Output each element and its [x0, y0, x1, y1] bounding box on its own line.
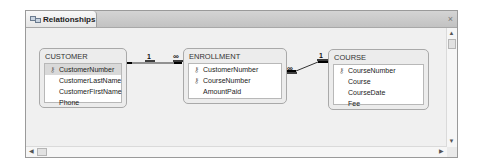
field-row[interactable]: CustomerFirstName	[45, 86, 121, 97]
field-name: CustomerFirstName	[59, 88, 122, 95]
scroll-up-icon[interactable]: ▲	[447, 29, 456, 38]
relationship-many-label: ∞	[287, 64, 292, 73]
field-name: AmountPaid	[203, 88, 241, 95]
scroll-down-icon[interactable]: ▼	[447, 137, 456, 146]
relationships-window: Relationships × 1 ∞ ∞ 1 CUSTOMER	[25, 10, 458, 158]
primary-key-icon: ⚷	[50, 64, 55, 75]
table-enrollment[interactable]: ENROLLMENT ⚷ CustomerNumber ⚷ CourseNumb…	[183, 48, 287, 104]
table-customer[interactable]: CUSTOMER ⚷ CustomerNumber CustomerLastNa…	[39, 48, 127, 108]
tab-label: Relationships	[43, 15, 95, 24]
document-tab-bar: Relationships ×	[26, 11, 457, 28]
table-title: COURSE	[329, 50, 428, 63]
field-row[interactable]: Course	[334, 76, 423, 87]
table-course[interactable]: COURSE ⚷ CourseNumber Course CourseDate …	[328, 49, 429, 110]
field-name: CourseNumber	[348, 67, 395, 74]
field-row[interactable]: CustomerLastName	[45, 75, 121, 86]
field-name: CourseDate	[348, 89, 385, 96]
field-name: CustomerNumber	[203, 66, 258, 73]
relationship-many-label: ∞	[173, 52, 178, 61]
scroll-left-icon[interactable]: ◀	[27, 147, 36, 156]
relationship-one-label: 1	[319, 52, 323, 59]
scroll-right-icon[interactable]: ▶	[437, 147, 446, 156]
field-name: Fee	[348, 100, 360, 107]
field-row[interactable]: CourseDate	[334, 87, 423, 98]
table-title: ENROLLMENT	[184, 49, 286, 62]
field-row[interactable]: ⚷ CustomerNumber	[189, 64, 281, 75]
field-name: CustomerNumber	[59, 66, 114, 73]
close-icon[interactable]: ×	[448, 13, 453, 25]
relationships-canvas: 1 ∞ ∞ 1 CUSTOMER ⚷ CustomerNumber Custom…	[26, 28, 447, 147]
table-title: CUSTOMER	[40, 49, 126, 62]
field-name: CourseNumber	[203, 77, 250, 84]
vertical-scrollbar[interactable]: ▲ ▼	[446, 28, 457, 147]
primary-key-icon: ⚷	[194, 75, 199, 86]
field-list: ⚷ CourseNumber Course CourseDate Fee	[333, 64, 424, 105]
field-row[interactable]: AmountPaid	[189, 86, 281, 97]
field-row[interactable]: ⚷ CourseNumber	[334, 65, 423, 76]
horizontal-scrollbar[interactable]: ◀ ▶	[26, 146, 447, 157]
field-list: ⚷ CustomerNumber ⚷ CourseNumber AmountPa…	[188, 63, 282, 99]
field-name: CustomerLastName	[59, 77, 121, 84]
field-row[interactable]: ⚷ CustomerNumber	[45, 64, 121, 75]
field-name: Phone	[59, 99, 79, 106]
scrollbar-corner	[447, 147, 457, 157]
field-row[interactable]: ⚷ CourseNumber	[189, 75, 281, 86]
tab-relationships[interactable]: Relationships	[26, 11, 97, 27]
field-list: ⚷ CustomerNumber CustomerLastName Custom…	[44, 63, 122, 103]
primary-key-icon: ⚷	[339, 65, 344, 76]
field-name: Course	[348, 78, 371, 85]
horizontal-scroll-thumb[interactable]	[37, 148, 47, 156]
primary-key-icon: ⚷	[194, 64, 199, 75]
relationship-one-label: 1	[147, 53, 151, 60]
vertical-scroll-thumb[interactable]	[448, 39, 456, 49]
field-row[interactable]: Fee	[334, 98, 423, 109]
relationships-icon	[30, 15, 40, 23]
field-row[interactable]: Phone	[45, 97, 121, 108]
